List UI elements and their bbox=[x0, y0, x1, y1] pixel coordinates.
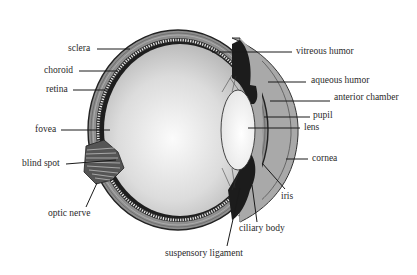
label-choroid: choroid bbox=[44, 65, 73, 76]
label-optic-nerve: optic nerve bbox=[48, 208, 90, 219]
label-anterior-chamber: anterior chamber bbox=[334, 92, 399, 103]
label-vitreous-humor: vitreous humor bbox=[296, 46, 354, 57]
label-retina: retina bbox=[46, 84, 68, 95]
label-pupil: pupil bbox=[313, 110, 333, 121]
label-lens: lens bbox=[304, 122, 319, 133]
label-cornea: cornea bbox=[312, 153, 337, 164]
label-blind-spot: blind spot bbox=[22, 158, 60, 169]
label-suspensory-ligament: suspensory ligament bbox=[165, 248, 243, 259]
label-sclera: sclera bbox=[68, 43, 90, 54]
label-ciliary-body: ciliary body bbox=[239, 223, 285, 234]
label-iris: iris bbox=[281, 191, 293, 202]
eye-diagram bbox=[0, 0, 417, 275]
label-fovea: fovea bbox=[35, 124, 56, 135]
label-aqueous-humor: aqueous humor bbox=[311, 75, 369, 86]
lens-shape bbox=[221, 90, 255, 170]
